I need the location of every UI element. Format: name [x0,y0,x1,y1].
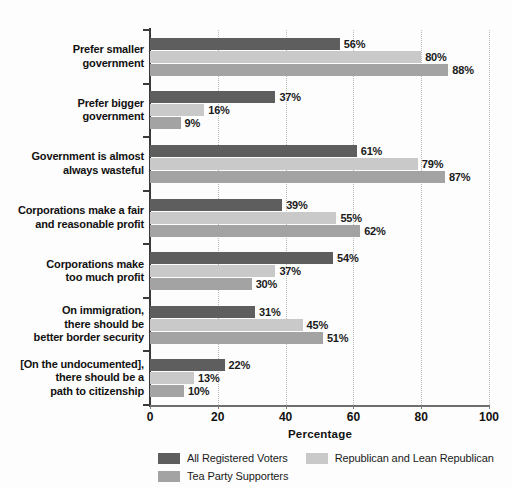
bar[interactable] [150,278,252,290]
bar-row: 51% [150,332,489,344]
legend-label: Tea Party Supporters [187,470,288,482]
category-label: Corporations maketoo much profit [0,258,144,285]
bar-row: 80% [150,51,489,63]
bar-value-label: 61% [357,145,382,157]
x-axis-title: Percentage [150,428,490,440]
category-label-line: government [0,57,144,71]
bar-row: 79% [150,158,489,170]
bar-group: 54%37%30% [150,252,489,291]
bar-value-label: 55% [336,212,361,224]
x-axis-tick [421,405,422,409]
bar[interactable] [150,51,421,63]
bar-value-label: 39% [282,199,307,211]
x-axis-tick-label: 40 [279,410,292,424]
category-label-line: Prefer smaller [0,43,144,57]
bar-row: 9% [150,117,489,129]
category-label-line: there should be a [0,371,144,385]
bar[interactable] [150,199,282,211]
bar-row: 88% [150,64,489,76]
bar[interactable] [150,332,323,344]
bar[interactable] [150,319,303,331]
bar-group: 61%79%87% [150,145,489,184]
plot-area: 56%80%88%37%16%9%61%79%87%39%55%62%54%37… [150,30,489,405]
bar-value-label: 9% [181,117,201,129]
bar[interactable] [150,64,448,76]
x-axis-tick-label: 80 [415,410,428,424]
bar-value-label: 22% [225,359,250,371]
bar[interactable] [150,158,418,170]
category-label-line: there should be [0,318,144,332]
bar[interactable] [150,38,340,50]
category-label-line: On immigration, [0,304,144,318]
bar-row: 37% [150,91,489,103]
legend-swatch-icon [158,453,180,464]
bar-group: 31%45%51% [150,306,489,345]
y-axis-tick [143,404,150,406]
legend-swatch-icon [306,453,328,464]
bar[interactable] [150,212,336,224]
x-axis-tick-label: 20 [211,410,224,424]
legend-swatch-icon [158,471,180,482]
bar-row: 31% [150,306,489,318]
x-axis-tick [286,405,287,409]
bar-row: 45% [150,319,489,331]
category-label: Prefer smallergovernment [0,43,144,70]
bar-value-label: 16% [204,104,229,116]
category-label: Prefer biggergovernment [0,97,144,124]
y-axis-tick [143,297,150,299]
x-axis-line [150,405,490,407]
bar[interactable] [150,385,184,397]
bar[interactable] [150,359,225,371]
bar-row: 56% [150,38,489,50]
bar-value-label: 79% [418,158,443,170]
bar[interactable] [150,104,204,116]
bar-value-label: 10% [184,385,209,397]
bar[interactable] [150,171,445,183]
y-axis-tick [143,83,150,85]
bar[interactable] [150,145,357,157]
y-axis-tick [143,350,150,352]
legend-row-1: All Registered Voters Republican and Lea… [158,449,508,467]
bar[interactable] [150,265,275,277]
chart-legend: All Registered Voters Republican and Lea… [158,449,508,485]
bar-row: 16% [150,104,489,116]
legend-item-all-registered-voters[interactable]: All Registered Voters [158,452,288,464]
x-axis-tick [218,405,219,409]
bar-chart: 56%80%88%37%16%9%61%79%87%39%55%62%54%37… [0,0,512,487]
bar[interactable] [150,117,181,129]
bar-row: 30% [150,278,489,290]
category-label-line: better border security [0,331,144,345]
bar[interactable] [150,225,360,237]
bar-row: 39% [150,199,489,211]
bar[interactable] [150,91,275,103]
bar[interactable] [150,372,194,384]
bar-row: 37% [150,265,489,277]
bar-value-label: 51% [323,332,348,344]
legend-item-republican-and-lean-republican[interactable]: Republican and Lean Republican [306,452,494,464]
bar-row: 55% [150,212,489,224]
legend-label: Republican and Lean Republican [335,452,494,464]
x-axis-tick [353,405,354,409]
x-axis-tick-label: 60 [347,410,360,424]
category-label: Government is almostalways wasteful [0,150,144,177]
bar-row: 62% [150,225,489,237]
legend-row-2: Tea Party Supporters [158,467,508,485]
category-label-line: Corporations make [0,258,144,272]
category-label-line: and reasonable profit [0,218,144,232]
bar[interactable] [150,306,255,318]
bar[interactable] [150,252,333,264]
x-axis-tick [489,405,490,409]
category-label-line: government [0,110,144,124]
bar-row: 87% [150,171,489,183]
legend-item-tea-party-supporters[interactable]: Tea Party Supporters [158,470,288,482]
y-axis-tick [143,243,150,245]
bar-group: 22%13%10% [150,359,489,398]
bar-value-label: 62% [360,225,385,237]
bar-value-label: 88% [448,64,473,76]
category-label: On immigration,there should bebetter bor… [0,304,144,345]
bar-value-label: 13% [194,372,219,384]
bar-row: 54% [150,252,489,264]
x-axis-tick [150,405,151,409]
legend-label: All Registered Voters [187,452,288,464]
category-label-line: Government is almost [0,150,144,164]
